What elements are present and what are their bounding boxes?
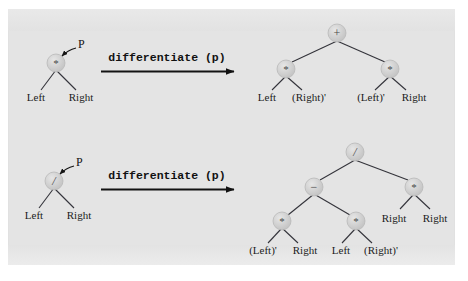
- row1-input-edge-left: [41, 70, 56, 90]
- row1-output-leaf-1: Left: [258, 92, 276, 103]
- row1-input-edge-right: [56, 70, 76, 90]
- row2-input-edge-right: [54, 188, 74, 208]
- row1-transform-label: differentiate (p): [108, 51, 225, 64]
- row2-input-tree: [39, 166, 74, 208]
- row2-input-node-divide: [45, 172, 63, 190]
- row1-output-node-multiply-right: [381, 60, 399, 78]
- row2-output-edge-lr-left: [342, 228, 356, 243]
- row1-input-tree: [41, 48, 76, 90]
- row2-output-leaf-5: Right: [382, 213, 406, 224]
- row2-output-leaf-2: Right: [293, 245, 317, 256]
- row1-input-node-multiply: [47, 54, 65, 72]
- row2-output-edge-root-right: [355, 160, 408, 180]
- row1-output-tree: [272, 24, 406, 90]
- row2-input-leaf-left: Left: [25, 210, 43, 221]
- differentiation-tree-figure: * P differentiate (p) Left Right + * * L…: [0, 0, 468, 281]
- row2-output-edge-rr-right: [414, 194, 430, 209]
- row2-output-node-minus: [305, 178, 323, 196]
- row1-pointer-label: P: [78, 37, 85, 52]
- row2-output-edge-minus-left: [288, 194, 314, 215]
- row1-input-leaf-right: Right: [69, 92, 93, 103]
- row1-output-leaf-2: (Right)': [292, 92, 326, 103]
- tree-vector-layer: [0, 0, 468, 281]
- row1-output-edge-r-right: [390, 76, 406, 90]
- row1-output-node-plus: [328, 24, 346, 42]
- row2-output-node-multiply-right: [405, 178, 423, 196]
- row1-pointer-arrow: [62, 48, 76, 56]
- row2-output-leaf-1: (Left)': [249, 245, 277, 256]
- row2-output-edge-rr-left: [400, 194, 414, 209]
- row2-output-edge-root-left: [320, 160, 355, 180]
- row1-output-leaf-3: (Left)': [357, 92, 385, 103]
- row1-output-node-multiply-left: [277, 60, 295, 78]
- row2-transform-label: differentiate (p): [108, 169, 225, 182]
- row2-output-leaf-4: (Right)': [364, 245, 398, 256]
- row2-pointer-label: P: [76, 155, 83, 170]
- row2-output-tree: [268, 143, 430, 243]
- row1-output-edge-root-right: [337, 41, 385, 62]
- row2-pointer-arrow: [60, 166, 74, 174]
- row2-output-node-divide: [346, 143, 364, 161]
- row2-output-edge-ll-left: [268, 228, 282, 243]
- row2-output-edge-ll-right: [282, 228, 298, 243]
- row2-output-node-multiply-ll: [273, 212, 291, 230]
- row1-output-leaf-4: Right: [402, 92, 426, 103]
- row2-output-leaf-3: Left: [332, 245, 350, 256]
- row1-output-edge-root-left: [292, 41, 337, 62]
- row2-input-leaf-right: Right: [67, 210, 91, 221]
- row1-input-leaf-left: Left: [27, 92, 45, 103]
- row2-input-edge-left: [39, 188, 54, 208]
- row2-output-leaf-6: Right: [423, 213, 447, 224]
- row1-output-edge-l-right: [286, 76, 302, 90]
- row2-output-edge-minus-right: [314, 194, 350, 215]
- row2-output-node-multiply-lr: [347, 212, 365, 230]
- row2-output-edge-lr-right: [356, 228, 372, 243]
